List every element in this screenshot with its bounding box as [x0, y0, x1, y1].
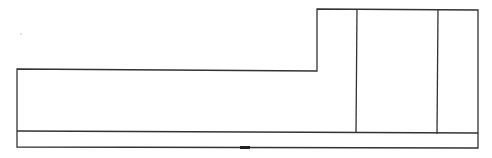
bottom-band-line: [17, 131, 478, 133]
diagram-canvas: [0, 0, 492, 158]
divider-line-2: [437, 10, 438, 134]
speck-dot: [20, 33, 22, 35]
outline-shape: [17, 9, 478, 148]
divider-line-1: [356, 9, 357, 133]
bottom-marker: [240, 146, 250, 149]
